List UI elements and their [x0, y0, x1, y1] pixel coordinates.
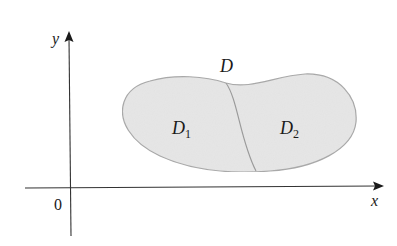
x-axis-label: x — [370, 192, 378, 209]
origin-label: 0 — [54, 196, 62, 213]
x-axis — [25, 186, 378, 188]
y-axis — [69, 38, 71, 236]
y-axis-label: y — [50, 30, 60, 48]
diagram-canvas: y x 0 D D1 D2 — [0, 0, 397, 246]
region-d-label: D — [219, 56, 233, 76]
